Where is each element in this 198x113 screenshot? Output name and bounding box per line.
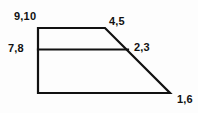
vertex-label-top-right: 4,5 xyxy=(109,15,125,27)
diagram-canvas: 9,10 4,5 7,8 2,3 1,6 xyxy=(0,0,198,113)
quadrilateral-outline xyxy=(38,28,170,93)
vertex-label-top-left: 9,10 xyxy=(14,10,36,22)
vertex-label-mid-left: 7,8 xyxy=(8,42,24,54)
vertex-label-mid-right: 2,3 xyxy=(134,41,150,53)
vertex-label-bottom-right: 1,6 xyxy=(177,93,193,105)
